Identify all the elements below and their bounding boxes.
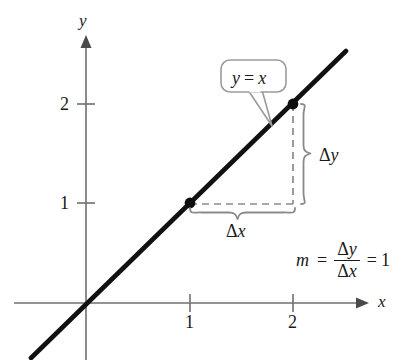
point-1-1 <box>185 198 196 209</box>
slope-fraction: Δy Δx <box>334 240 360 281</box>
delta-y-variable: y <box>331 145 339 165</box>
slope-variable-m: m <box>296 250 309 271</box>
delta-y-symbol: Δ <box>319 145 331 165</box>
x-axis-arrowhead <box>356 298 369 309</box>
delta-x-variable: x <box>238 221 246 241</box>
callout-rhs: x <box>258 68 266 88</box>
delta-x-symbol: Δ <box>226 221 238 241</box>
y-tick-label-1: 1 <box>60 194 69 212</box>
denominator-variable: x <box>349 261 357 281</box>
numerator-variable: y <box>349 239 357 259</box>
x-tick-label-1: 1 <box>185 313 194 331</box>
x-tick-label-2: 2 <box>288 313 297 331</box>
coordinate-plane-svg <box>0 0 419 360</box>
y-axis-label: y <box>79 12 87 29</box>
slope-denominator: Δx <box>334 261 360 281</box>
numerator-delta: Δ <box>337 239 349 259</box>
slope-result-value: 1 <box>381 250 390 271</box>
graph-figure: y x 1 2 2 1 Δy Δx y=x m = Δy Δx = 1 <box>0 0 419 360</box>
y-tick-label-2: 2 <box>60 95 69 113</box>
slope-formula: m = Δy Δx = 1 <box>296 240 390 281</box>
callout-lhs: y <box>232 68 240 88</box>
delta-x-brace <box>190 208 295 219</box>
slope-equals-2: = <box>367 250 377 271</box>
point-2-2 <box>288 99 299 110</box>
callout-bubble-tail <box>248 90 272 126</box>
denominator-delta: Δ <box>337 261 349 281</box>
slope-numerator: Δy <box>334 240 360 260</box>
delta-x-label: Δx <box>226 222 246 240</box>
delta-y-label: Δy <box>319 146 339 164</box>
callout-equation-text: y=x <box>232 69 266 87</box>
callout-equals: = <box>244 68 254 88</box>
slope-equals-1: = <box>317 250 327 271</box>
y-axis-arrowhead <box>81 35 92 48</box>
delta-y-brace <box>301 104 311 204</box>
x-axis-label: x <box>378 293 386 310</box>
